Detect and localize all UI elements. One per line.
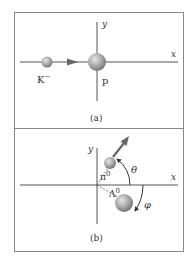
y-label-b: y <box>87 144 94 154</box>
proton-ball <box>88 53 106 71</box>
kaon-label: K− <box>37 73 50 85</box>
x-label-b: x <box>171 172 176 182</box>
pion-ball <box>104 157 116 169</box>
caption-a: (a) <box>90 113 102 123</box>
phi-arc <box>135 185 143 211</box>
phi-label: φ <box>144 199 151 210</box>
theta-arc <box>117 159 130 185</box>
direction-arrow-icon <box>67 59 78 66</box>
kaon-ball <box>42 57 53 68</box>
theta-label: θ <box>131 164 137 175</box>
pion-velocity-shaft <box>113 143 124 157</box>
x-label-a: x <box>171 49 176 59</box>
proton-label: p <box>102 75 108 86</box>
caption-b: (b) <box>90 233 103 243</box>
lambda-ball <box>115 194 133 212</box>
pion-label: π0 <box>100 170 110 182</box>
diagram: x y K− p (a) x y π0 Λ0 θ φ (b) <box>0 0 194 264</box>
y-label-a: y <box>101 19 108 29</box>
panel-a <box>15 13 184 129</box>
